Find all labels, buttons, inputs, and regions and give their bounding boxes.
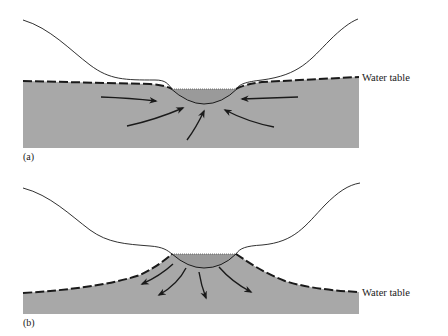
saturated-ground-a [23, 77, 359, 148]
water-table-label-b: Water table [362, 287, 410, 298]
water-table-label-a: Water table [362, 72, 410, 83]
panel-b: Water table (b) [23, 183, 410, 329]
land-surface-left-a [23, 20, 172, 89]
panel-a: Water table (a) [23, 19, 410, 163]
panel-label-a: (a) [23, 151, 34, 163]
land-surface-right-b [236, 183, 360, 254]
land-surface-left-b [23, 188, 172, 254]
panel-label-b: (b) [23, 317, 35, 329]
stream-groundwater-diagram: Water table (a) Water table (b) [0, 0, 448, 336]
